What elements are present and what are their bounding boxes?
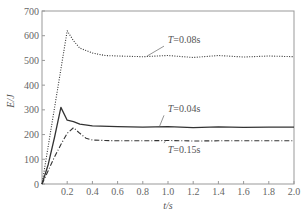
x-axis: 0.20.40.60.81.01.21.41.61.82.0 xyxy=(61,181,300,197)
y-axis-label: E/J xyxy=(5,94,16,109)
x-tick-label: 1.2 xyxy=(187,186,200,197)
x-tick-label: 2.0 xyxy=(288,186,301,197)
x-tick-label: 0.2 xyxy=(61,186,74,197)
x-axis-label: t/s xyxy=(163,200,173,211)
annotation-label: T=0.15s xyxy=(168,144,201,155)
y-tick-label: 100 xyxy=(24,154,39,165)
x-tick-label: 1.6 xyxy=(237,186,250,197)
y-tick-label: 200 xyxy=(24,129,39,140)
x-tick-label: 0.8 xyxy=(137,186,150,197)
y-tick-label: 400 xyxy=(24,80,39,91)
x-tick-label: 1.8 xyxy=(263,186,276,197)
y-tick-label: 300 xyxy=(24,104,39,115)
annotation-label: T=0.04s xyxy=(168,103,201,114)
annotation-leader xyxy=(159,115,164,126)
annotations: T=0.08sT=0.04sT=0.15s xyxy=(147,34,201,155)
annotation-label: T=0.08s xyxy=(168,34,201,45)
line-chart: 0100200300400500600700 0.20.40.60.81.01.… xyxy=(0,0,308,217)
y-tick-label: 0 xyxy=(34,179,39,190)
x-tick-label: 0.6 xyxy=(111,186,124,197)
x-tick-label: 1.0 xyxy=(162,186,175,197)
y-tick-label: 600 xyxy=(24,30,39,41)
series-line-t-0-15s xyxy=(42,128,294,184)
annotation-leader xyxy=(147,46,164,56)
y-tick-label: 500 xyxy=(24,55,39,66)
y-tick-label: 700 xyxy=(24,6,39,17)
x-tick-label: 1.4 xyxy=(212,186,225,197)
x-tick-label: 0.4 xyxy=(86,186,99,197)
